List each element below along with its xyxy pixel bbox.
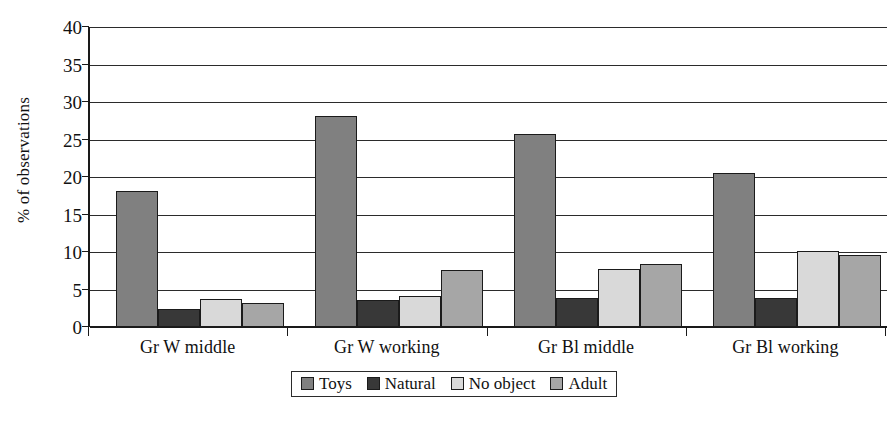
x-axis-labels: Gr W middleGr W workingGr Bl middleGr Bl… [88, 337, 885, 358]
y-tick-label: 25 [36, 130, 82, 149]
bar-no-object [399, 296, 441, 327]
legend-item-toys: Toys [301, 375, 352, 392]
legend-label: Adult [568, 375, 607, 392]
y-tick-label: 35 [36, 55, 82, 74]
y-tick-label: 30 [36, 93, 82, 112]
bar-no-object [797, 251, 839, 327]
x-axis-category-label: Gr W middle [88, 337, 287, 358]
x-axis-category-label: Gr Bl middle [487, 337, 686, 358]
y-tick-label: 10 [36, 243, 82, 262]
bar-natural [357, 300, 399, 327]
legend-swatch-icon [550, 377, 563, 390]
bar-natural [158, 309, 200, 327]
legend-item-no-object: No object [451, 375, 536, 392]
bar-group [688, 27, 887, 327]
legend-item-adult: Adult [550, 375, 607, 392]
bar-adult [640, 264, 682, 327]
x-tick-mark [88, 327, 89, 336]
bar-no-object [598, 269, 640, 327]
y-tick-label: 20 [36, 168, 82, 187]
legend-label: Natural [385, 375, 436, 392]
x-axis-category-label: Gr Bl working [686, 337, 885, 358]
x-tick-mark [487, 327, 488, 336]
bar-no-object [200, 299, 242, 327]
bar-toys [713, 173, 755, 327]
bar-adult [839, 255, 881, 327]
legend-swatch-icon [301, 377, 314, 390]
legend-swatch-icon [451, 377, 464, 390]
bar-natural [755, 298, 797, 327]
legend-label: No object [469, 375, 536, 392]
bar-toys [514, 134, 556, 328]
bar-adult [441, 270, 483, 327]
bar-toys [315, 116, 357, 327]
y-tick-label: 40 [36, 18, 82, 37]
bar-groups [90, 27, 887, 327]
bar-adult [242, 303, 284, 327]
bar-group [489, 27, 688, 327]
bar-natural [556, 298, 598, 327]
bar-group [90, 27, 289, 327]
y-axis-ticks: 0510152025303540 [30, 27, 82, 327]
chart-figure: % of observations 0510152025303540 Gr W … [0, 0, 894, 423]
legend-item-natural: Natural [367, 375, 436, 392]
bar-toys [116, 191, 158, 328]
legend-swatch-icon [367, 377, 380, 390]
y-tick-label: 0 [36, 318, 82, 337]
y-tick-label: 5 [36, 280, 82, 299]
y-tick-label: 15 [36, 205, 82, 224]
x-axis-category-label: Gr W working [287, 337, 486, 358]
x-tick-mark [686, 327, 687, 336]
x-tick-mark [287, 327, 288, 336]
legend-label: Toys [319, 375, 352, 392]
x-tick-mark [885, 327, 886, 336]
bar-group [289, 27, 488, 327]
legend: ToysNaturalNo objectAdult [291, 371, 617, 397]
plot-area [88, 27, 887, 327]
